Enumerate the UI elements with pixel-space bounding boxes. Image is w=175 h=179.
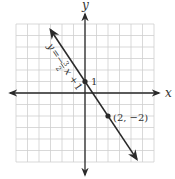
x-axis-label: x bbox=[165, 86, 172, 100]
y-intercept-label: 1 bbox=[91, 76, 97, 87]
graphed-line bbox=[51, 30, 137, 159]
point-marker bbox=[105, 113, 110, 118]
coordinate-plane: x y 1 (2, −2) y = − 3 2 x + 1 bbox=[0, 0, 175, 179]
y-axis-label: y bbox=[81, 0, 89, 12]
point-label: (2, −2) bbox=[113, 112, 148, 123]
